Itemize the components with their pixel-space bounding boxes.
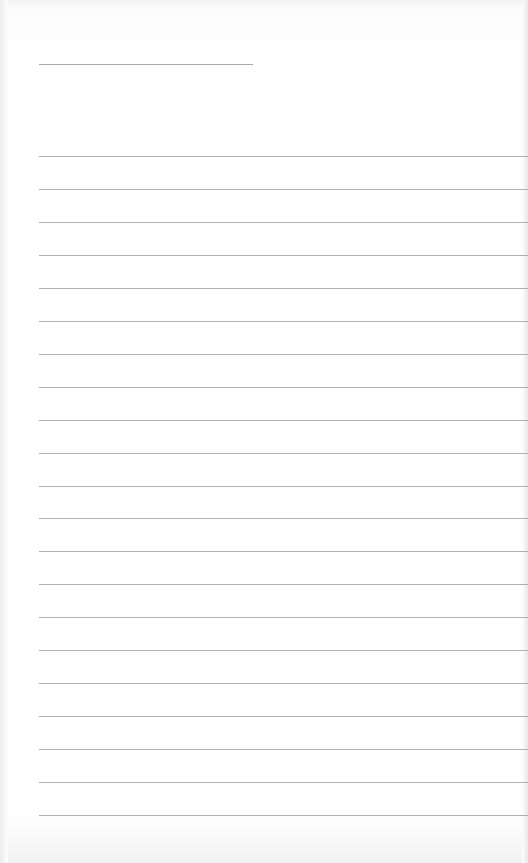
ruled-line [39, 551, 528, 552]
ruled-line [39, 288, 528, 289]
ruled-line [39, 486, 528, 487]
ruled-line [39, 518, 528, 519]
ruled-line [39, 189, 528, 190]
ruled-line [39, 650, 528, 651]
ruled-line [39, 584, 528, 585]
ruled-line [39, 222, 528, 223]
ruled-line [39, 321, 528, 322]
ruled-line [39, 255, 528, 256]
ruled-line [39, 617, 528, 618]
ruled-line [39, 749, 528, 750]
ruled-line [39, 815, 528, 816]
ruled-line [39, 453, 528, 454]
ruled-line [39, 156, 528, 157]
ruled-line [39, 683, 528, 684]
ruled-line [39, 354, 528, 355]
ruled-line [39, 782, 528, 783]
paper-left-edge-shadow [0, 0, 8, 863]
ruled-line [39, 716, 528, 717]
ruled-line [39, 420, 528, 421]
paper-right-edge-shadow [522, 0, 528, 863]
header-name-line [39, 64, 253, 65]
lined-paper-sheet [0, 0, 528, 863]
ruled-line [39, 387, 528, 388]
